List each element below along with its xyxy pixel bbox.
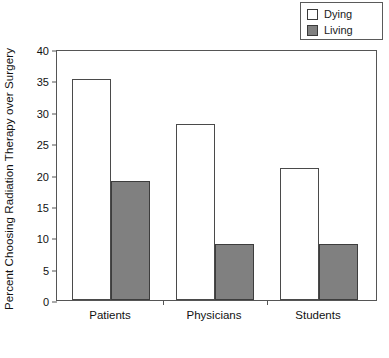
white-square-icon xyxy=(307,9,318,20)
y-axis-title: Percent Choosing Radiation Therapy over … xyxy=(0,0,18,358)
y-tick-mark xyxy=(52,302,57,303)
legend-item-living: Living xyxy=(307,23,377,38)
y-tick-label: 30 xyxy=(37,107,49,119)
y-tick-label: 10 xyxy=(37,233,49,245)
y-tick-mark xyxy=(52,176,57,177)
plot-area: 0510152025303540 xyxy=(56,50,377,301)
y-tick-label: 20 xyxy=(37,170,49,182)
bar-patients-living xyxy=(111,181,150,300)
x-axis-label-patients: Patients xyxy=(89,309,131,321)
x-axis-tick xyxy=(267,300,268,305)
y-tick-mark xyxy=(52,270,57,271)
legend-item-dying: Dying xyxy=(307,7,377,22)
bar-patients-dying xyxy=(72,79,111,300)
y-tick-label: 0 xyxy=(43,296,49,308)
y-tick-label: 15 xyxy=(37,201,49,213)
y-tick-label: 35 xyxy=(37,76,49,88)
legend-label-living: Living xyxy=(324,24,353,37)
bar-students-living xyxy=(319,244,358,300)
y-tick-mark xyxy=(52,145,57,146)
y-tick-mark xyxy=(52,239,57,240)
bar-physicians-living xyxy=(215,244,254,300)
y-tick-mark xyxy=(52,113,57,114)
chart-figure: Dying Living Percent Choosing Radiation … xyxy=(0,0,389,358)
bar-students-dying xyxy=(280,168,319,300)
y-tick-mark xyxy=(52,51,57,52)
y-tick-label: 5 xyxy=(43,264,49,276)
x-axis-tick xyxy=(163,300,164,305)
y-tick-label: 40 xyxy=(37,45,49,57)
x-axis-label-students: Students xyxy=(295,309,340,321)
gray-square-icon xyxy=(307,25,318,36)
y-axis-title-text: Percent Choosing Radiation Therapy over … xyxy=(3,48,15,310)
bar-physicians-dying xyxy=(176,124,215,300)
y-tick-label: 25 xyxy=(37,139,49,151)
chart-legend: Dying Living xyxy=(300,2,383,40)
legend-label-dying: Dying xyxy=(324,8,352,21)
x-axis-label-physicians: Physicians xyxy=(187,309,242,321)
y-tick-mark xyxy=(52,82,57,83)
y-tick-mark xyxy=(52,207,57,208)
